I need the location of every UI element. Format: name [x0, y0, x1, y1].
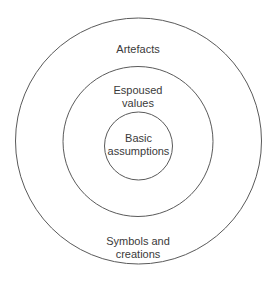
symbols-label-line2: creations: [68, 248, 208, 261]
basic-assumptions-label-line2: assumptions: [69, 145, 209, 158]
culture-levels-diagram: Artefacts Espoused values Basic assumpti…: [0, 0, 275, 289]
artefacts-label: Artefacts: [68, 43, 208, 56]
symbols-label-line1: Symbols and: [68, 235, 208, 248]
basic-assumptions-label-line1: Basic: [69, 132, 209, 145]
espoused-label-line2: values: [68, 97, 208, 110]
espoused-label-line1: Espoused: [68, 84, 208, 97]
